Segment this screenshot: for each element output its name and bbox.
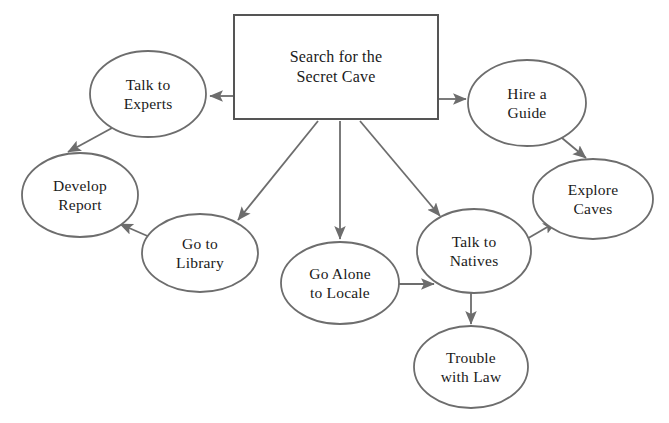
node-go-alone-to-locale[interactable]: Go Aloneto Locale	[281, 242, 399, 324]
node-hire-a-guide[interactable]: Hire aGuide	[468, 60, 586, 146]
node-label-line: Library	[176, 253, 224, 270]
node-develop-report[interactable]: DevelopReport	[22, 153, 138, 237]
node-label-line: Go to	[182, 234, 218, 251]
node-label-line: Report	[58, 195, 102, 212]
node-label-line: Natives	[450, 251, 499, 268]
node-explore-caves[interactable]: ExploreCaves	[533, 159, 653, 239]
node-label-line: Talk to	[126, 75, 171, 92]
node-label-line: Experts	[124, 94, 173, 111]
edge-root-to-go-to-library	[238, 121, 318, 220]
node-label-line: Hire a	[507, 84, 547, 101]
node-talk-to-natives[interactable]: Talk toNatives	[417, 209, 531, 293]
node-go-to-library[interactable]: Go toLibrary	[142, 214, 258, 292]
diagram-canvas-container: Search for theSecret CaveTalk toExpertsH…	[0, 0, 669, 423]
node-label-line: Talk to	[452, 232, 497, 249]
node-label-line: Explore	[568, 180, 618, 197]
node-label-line: Caves	[574, 199, 613, 216]
node-label-line: Guide	[508, 103, 547, 120]
edge-talk-to-experts-to-develop-report	[68, 128, 112, 152]
node-label-line: to Locale	[310, 283, 370, 300]
node-talk-to-experts[interactable]: Talk toExperts	[90, 51, 206, 137]
nodes-layer: Search for theSecret CaveTalk toExpertsH…	[22, 15, 653, 408]
node-label-line: Search for the	[290, 48, 383, 65]
node-label-line: Trouble	[446, 348, 496, 365]
node-label-line: Go Alone	[309, 264, 370, 281]
node-label-line: with Law	[441, 367, 502, 384]
node-root[interactable]: Search for theSecret Cave	[234, 15, 438, 119]
node-label-line: Develop	[53, 176, 107, 193]
node-trouble-with-law[interactable]: Troublewith Law	[414, 326, 528, 408]
edge-root-to-talk-to-natives	[360, 121, 440, 216]
secret-cave-flow-diagram: Search for theSecret CaveTalk toExpertsH…	[0, 0, 669, 423]
node-label-line: Secret Cave	[296, 68, 375, 85]
